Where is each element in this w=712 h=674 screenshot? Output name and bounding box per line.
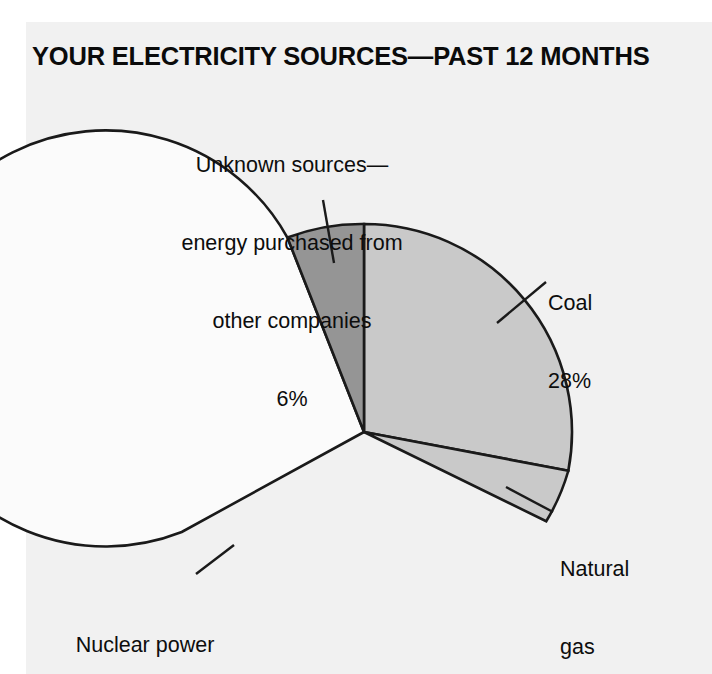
leader-line-nuclear-power: [196, 545, 234, 574]
slice-label-coal: Coal 28%: [548, 238, 698, 446]
slice-label-nuclear-name: Nuclear power: [30, 632, 260, 658]
slice-value-coal: 28%: [548, 368, 698, 394]
slice-label-natural-gas: Natural gas 5%: [560, 504, 700, 674]
slice-label-nuclear-power: Nuclear power 61%: [30, 580, 260, 674]
slice-label-unknown-line2: energy purchased from: [152, 230, 432, 256]
slice-label-coal-name: Coal: [548, 290, 698, 316]
slice-label-unknown-line1: Unknown sources—: [152, 152, 432, 178]
slice-label-unknown-line3: other companies: [152, 308, 432, 334]
slice-value-unknown-sources: 6%: [152, 386, 432, 412]
slice-label-gas-line1: Natural: [560, 556, 700, 582]
slice-label-unknown-sources: Unknown sources— energy purchased from o…: [152, 100, 432, 464]
pie-chart-figure: YOUR ELECTRICITY SOURCES—PAST 12 MONTHS …: [0, 0, 712, 674]
slice-label-gas-line2: gas: [560, 634, 700, 660]
